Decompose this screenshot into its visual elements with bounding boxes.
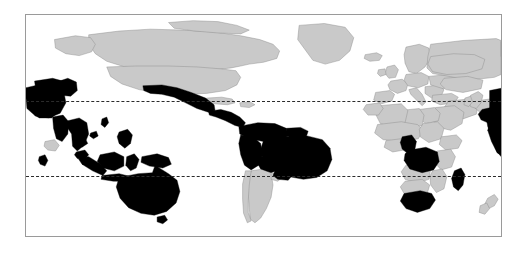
- world-map-svg: [26, 15, 501, 236]
- tropic-of-cancer-line: [26, 101, 501, 102]
- figure-title: [0, 0, 1, 1]
- legend-ocean-label: Ocean: [0, 0, 1, 1]
- legend-highlight-label: Highlighted countries: [0, 0, 1, 1]
- world-map-frame: Tropic of Cancer Tropic of Capricorn: [25, 14, 502, 237]
- legend-other-land-label: Other land: [0, 0, 1, 1]
- figure-container: Tropic of Cancer Tropic of Capricorn Hig…: [0, 0, 527, 255]
- tropic-of-capricorn-line: [26, 176, 501, 177]
- country-mali-niger-chad: [375, 122, 423, 142]
- legend-border-label: Country borders: [0, 0, 1, 1]
